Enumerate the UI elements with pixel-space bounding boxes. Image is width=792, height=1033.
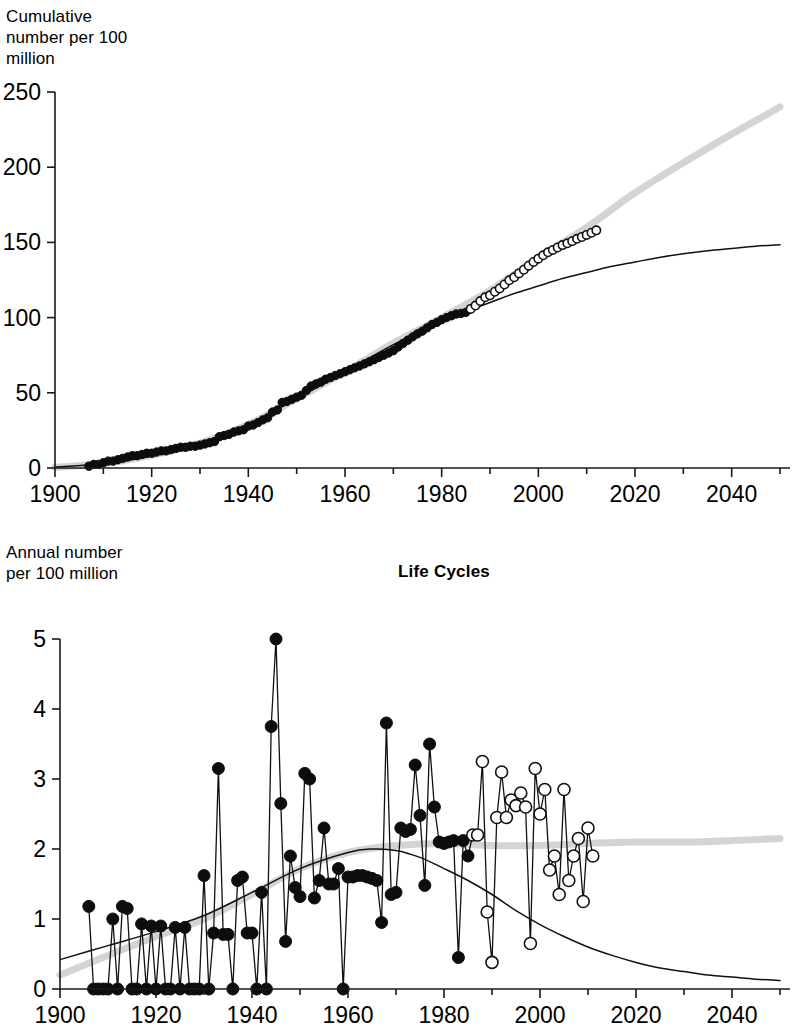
data-point-open xyxy=(500,812,512,824)
data-point-filled xyxy=(265,721,277,733)
y-tick-label: 0 xyxy=(28,455,41,481)
data-point-filled xyxy=(246,927,258,939)
data-point-filled xyxy=(273,406,281,414)
data-point-filled xyxy=(424,738,436,750)
data-point-open xyxy=(587,850,599,862)
data-point-open xyxy=(472,829,484,841)
life-cycles-figure: Cumulativenumber per 100million 19001920… xyxy=(0,0,792,1033)
model-curve-group xyxy=(55,245,780,467)
data-point-open xyxy=(486,956,498,968)
data-point-open xyxy=(572,833,584,845)
data-point-open xyxy=(515,787,527,799)
data-point-filled xyxy=(83,900,95,912)
x-tick-label: 1900 xyxy=(34,1002,85,1028)
y-tick-label: 3 xyxy=(33,766,46,792)
projection-band-group xyxy=(55,107,780,467)
data-point-filled xyxy=(212,763,224,775)
data-point-filled xyxy=(328,878,340,890)
model-curve xyxy=(55,245,780,467)
data-point-filled xyxy=(419,879,431,891)
data-point-filled xyxy=(280,935,292,947)
data-point-open xyxy=(476,756,488,768)
x-tick-label: 1900 xyxy=(29,481,80,507)
data-point-open xyxy=(563,875,575,887)
x-tick-label: 1920 xyxy=(130,1002,181,1028)
y-tick-label: 200 xyxy=(3,154,41,180)
data-point-filled xyxy=(107,913,119,925)
data-point-open xyxy=(592,226,600,234)
data-point-filled xyxy=(371,875,383,887)
x-tick-label: 2000 xyxy=(514,1002,565,1028)
x-tick-label: 2040 xyxy=(706,1002,757,1028)
data-point-filled xyxy=(155,920,167,932)
x-tick-label: 2020 xyxy=(610,1002,661,1028)
data-point-filled xyxy=(198,870,210,882)
projection-band xyxy=(55,107,780,467)
data-point-open xyxy=(539,784,551,796)
data-point-open xyxy=(548,850,560,862)
y-tick-label: 250 xyxy=(3,79,41,105)
data-point-filled xyxy=(318,822,330,834)
x-tick-label: 1960 xyxy=(322,1002,373,1028)
y-tick-label: 4 xyxy=(33,696,46,722)
data-point-filled xyxy=(409,759,421,771)
model-curve xyxy=(60,849,780,981)
x-tick-label: 1940 xyxy=(226,1002,277,1028)
projection-band xyxy=(60,839,780,976)
data-point-filled xyxy=(304,773,316,785)
data-point-open xyxy=(496,766,508,778)
data-point-open xyxy=(534,808,546,820)
data-point-open xyxy=(582,822,594,834)
x-tick-label: 1940 xyxy=(223,481,274,507)
x-tick-label: 2020 xyxy=(609,481,660,507)
data-point-filled xyxy=(452,952,464,964)
cumulative-plot: 1900192019401960198020002020204005010015… xyxy=(0,0,792,512)
x-tick-label: 2040 xyxy=(706,481,757,507)
y-tick-label: 0 xyxy=(33,976,46,1002)
annual-plot: 19001920194019601980200020202040012345 xyxy=(0,512,792,1033)
data-point-open xyxy=(553,889,565,901)
data-point-filled xyxy=(121,903,133,915)
y-tick-label: 100 xyxy=(3,305,41,331)
data-point-filled xyxy=(414,809,426,821)
data-point-filled xyxy=(380,717,392,729)
projection-band-group xyxy=(60,839,780,976)
annual-panel: Annual numberper 100 million Life Cycles… xyxy=(0,512,792,1033)
y-tick-label: 50 xyxy=(15,380,41,406)
data-point-filled xyxy=(284,850,296,862)
x-tick-label: 1920 xyxy=(126,481,177,507)
data-point-open xyxy=(529,763,541,775)
data-point-filled xyxy=(275,798,287,810)
data-point-filled xyxy=(390,886,402,898)
model-curve-group xyxy=(60,849,780,981)
data-point-filled xyxy=(332,863,344,875)
data-point-filled xyxy=(236,871,248,883)
x-tick-label: 1980 xyxy=(416,481,467,507)
data-point-open xyxy=(544,864,556,876)
data-point-filled xyxy=(308,892,320,904)
x-tick-label: 2000 xyxy=(513,481,564,507)
data-point-filled xyxy=(376,917,388,929)
data-point-open xyxy=(568,850,580,862)
data-point-open xyxy=(520,801,532,813)
x-tick-label: 1980 xyxy=(418,1002,469,1028)
y-tick-label: 5 xyxy=(33,626,46,652)
data-points-group xyxy=(85,226,601,470)
data-point-open xyxy=(481,906,493,918)
data-point-filled xyxy=(222,928,234,940)
data-point-filled xyxy=(294,891,306,903)
data-point-filled xyxy=(404,823,416,835)
data-point-filled xyxy=(270,633,282,645)
data-point-filled xyxy=(179,921,191,933)
cumulative-panel: Cumulativenumber per 100million 19001920… xyxy=(0,0,792,512)
data-point-open xyxy=(577,896,589,908)
data-point-filled xyxy=(462,850,474,862)
data-point-open xyxy=(524,938,536,950)
y-tick-label: 2 xyxy=(33,836,46,862)
x-tick-label: 1960 xyxy=(319,481,370,507)
axes-group: 1900192019401960198020002020204005010015… xyxy=(3,79,790,507)
y-tick-label: 150 xyxy=(3,229,41,255)
data-point-filled xyxy=(256,886,268,898)
data-point-filled xyxy=(428,801,440,813)
y-tick-label: 1 xyxy=(33,906,46,932)
